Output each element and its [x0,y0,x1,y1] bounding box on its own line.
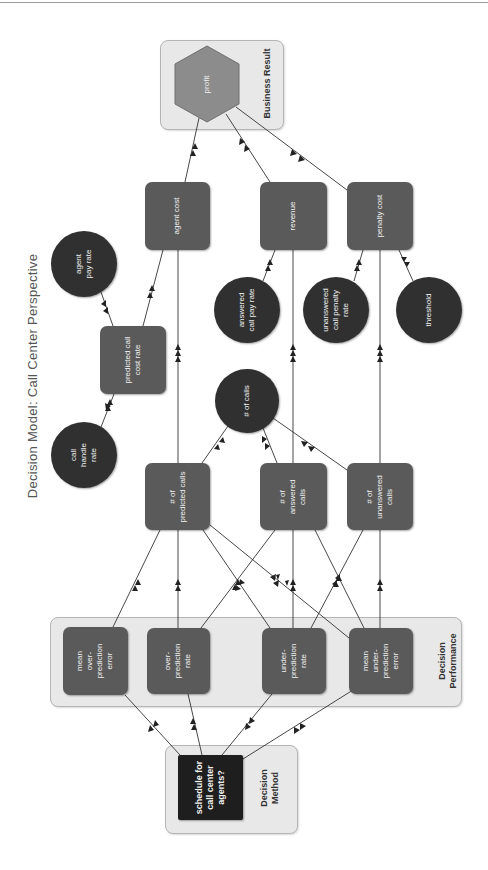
edge-agent-cost-profit [185,118,199,182]
node-predicted-call-cost-rate: predicted call cost rate [100,326,166,394]
edge-penalty-cost-profit [236,107,347,190]
node-num-calls: # of calls [215,369,279,433]
node-num-predicted-calls: # of predicted calls [145,463,210,530]
edge-threshold-pc [399,250,413,281]
node-label: mean under- prediction error [361,644,401,679]
node-over-prediction-rate: over- prediction rate [147,628,210,694]
edge-calls-predicted [202,426,228,463]
edge-schedule-mope [125,695,180,755]
node-label: schedule for call center agents? [194,761,227,815]
node-answered-call-pay-rate: answered call pay rate [214,277,280,343]
node-agent-cost: agent cost [145,182,210,250]
node-label: penalty cost [375,195,385,238]
node-schedule-decision: schedule for call center agents? [178,755,243,820]
node-label: unanswered call penalty rate [321,288,351,332]
node-call-handle-rate: call handle rate [51,422,117,488]
node-label: predicted call cost rate [123,336,143,383]
node-unanswered-call-penalty-rate: unanswered call penalty rate [303,277,369,343]
node-label: # of unanswered calls [365,475,395,519]
node-mean-under-prediction-error: mean under- prediction error [349,628,413,694]
node-mean-over-prediction-error: mean over- prediction error [63,627,128,695]
node-under-prediction-rate: under- prediction rate [262,628,326,694]
edge-schedule-opr [188,694,202,755]
node-label: # of predicted calls [167,471,187,522]
node-label: # of answered calls [279,479,309,514]
node-label: revenue [288,202,298,231]
node-threshold: threshold [396,277,462,343]
edge-mupe-predicted [210,525,349,638]
node-label: over- prediction rate [164,644,194,679]
edge-upr-predicted [203,530,270,628]
node-label: answered call pay rate [237,288,257,331]
node-label: threshold [424,294,434,327]
node-label: under- prediction rate [279,644,309,679]
node-revenue: revenue [260,182,327,250]
node-label: mean over- prediction error [76,644,116,679]
node-label: agent cost [172,198,182,235]
node-num-answered-calls: # of answered calls [260,463,327,530]
node-profit: profit [172,44,242,124]
node-agent-pay-rate: agent pay rate [51,231,117,297]
edge-answered-pay-rev [263,250,275,281]
node-label: call handle rate [69,443,99,467]
edge-unanswered-penalty-rate-pc [354,250,363,281]
node-label: # of calls [242,385,252,417]
edge-mope-predicted [113,530,160,627]
edge-schedule-mupe [243,690,353,759]
node-num-unanswered-calls: # of unanswered calls [347,463,413,530]
node-label: agent pay rate [74,250,94,279]
node-label: profit [202,75,211,93]
node-penalty-cost: penalty cost [347,182,413,250]
